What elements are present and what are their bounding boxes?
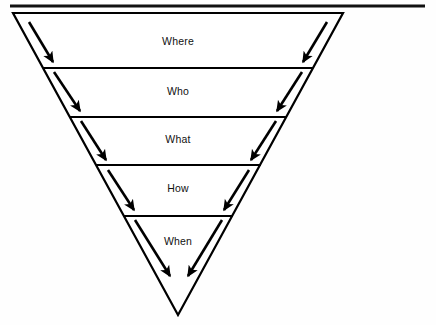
band-label-who: Who [167,85,189,97]
inverted-pyramid-diagram: WhereWhoWhatHowWhen [0,0,436,325]
band-label-when: When [164,235,192,247]
band-label-where: Where [162,35,194,47]
diagram-canvas: WhereWhoWhatHowWhen [0,0,436,325]
band-label-what: What [165,133,190,145]
band-label-how: How [167,182,189,194]
